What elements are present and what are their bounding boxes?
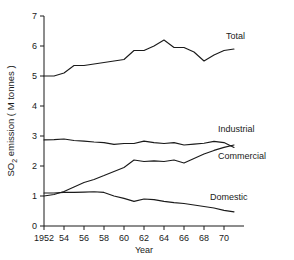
- series-line-industrial: [44, 139, 234, 147]
- y-tick-label-1: 1: [32, 191, 37, 201]
- y-tick-label-5: 5: [32, 71, 37, 81]
- y-tick-label-3: 3: [32, 131, 37, 141]
- x-tick-label-56: 56: [79, 233, 89, 243]
- x-tick-label-66: 66: [179, 233, 189, 243]
- chart-plot-area: 012345671952545658606264666870YearSO2 em…: [0, 0, 294, 260]
- x-tick-label-60: 60: [119, 233, 129, 243]
- y-tick-label-0: 0: [32, 221, 37, 231]
- x-axis-title: Year: [135, 245, 153, 255]
- series-line-total: [44, 40, 234, 76]
- y-tick-label-7: 7: [32, 11, 37, 21]
- series-label-industrial: Industrial: [218, 124, 255, 134]
- so2-emission-line-chart: 012345671952545658606264666870YearSO2 em…: [0, 0, 294, 260]
- x-tick-label-64: 64: [159, 233, 169, 243]
- x-tick-label-70: 70: [219, 233, 229, 243]
- x-tick-label-54: 54: [59, 233, 69, 243]
- x-tick-label-1952: 1952: [34, 233, 54, 243]
- x-tick-label-68: 68: [199, 233, 209, 243]
- series-label-commercial: Commercial: [218, 151, 266, 161]
- series-label-domestic: Domestic: [210, 192, 248, 202]
- y-axis-title: SO2 emission ( M tonnes ): [5, 65, 18, 176]
- y-tick-label-6: 6: [32, 41, 37, 51]
- series-line-domestic: [44, 192, 234, 212]
- series-line-commercial: [44, 145, 234, 196]
- x-tick-label-62: 62: [139, 233, 149, 243]
- y-tick-label-4: 4: [32, 101, 37, 111]
- series-label-total: Total: [226, 31, 245, 41]
- y-tick-label-2: 2: [32, 161, 37, 171]
- x-tick-label-58: 58: [99, 233, 109, 243]
